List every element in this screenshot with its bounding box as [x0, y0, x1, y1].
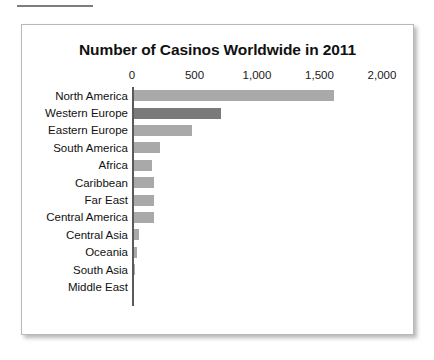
- bar-rows: North AmericaWestern EuropeEastern Europ…: [22, 87, 413, 296]
- bar-track: [134, 244, 138, 261]
- category-label: Middle East: [22, 281, 128, 293]
- bar-row: Oceania: [22, 244, 413, 261]
- bar-row: South America: [22, 139, 413, 156]
- category-label: Central Asia: [22, 229, 128, 241]
- bar-track: [134, 157, 153, 174]
- bar: [134, 177, 155, 188]
- bar-chart-plot-area: 05001,0001,5002,000 North AmericaWestern…: [22, 25, 413, 334]
- x-axis-tick-label: 1,500: [305, 69, 334, 81]
- bar: [134, 229, 139, 240]
- category-label: Oceania: [22, 246, 128, 258]
- bar-track: [134, 191, 154, 208]
- bar-track: [134, 174, 155, 191]
- x-axis-tick-label: 2,000: [368, 69, 397, 81]
- bar-row: South Asia: [22, 261, 413, 278]
- bar-row: Middle East: [22, 278, 413, 295]
- bar-track: [134, 122, 193, 139]
- bar: [134, 90, 334, 101]
- category-label: South America: [22, 142, 128, 154]
- category-label: South Asia: [22, 264, 128, 276]
- chart-card: Number of Casinos Worldwide in 2011 0500…: [21, 24, 414, 335]
- bar: [134, 160, 153, 171]
- bar: [134, 247, 138, 258]
- x-axis-tick-label: 500: [185, 69, 204, 81]
- category-label: Eastern Europe: [22, 124, 128, 136]
- bar-row: Central Asia: [22, 226, 413, 243]
- bar-track: [134, 104, 222, 121]
- category-label: Far East: [22, 194, 128, 206]
- bar-track: [134, 209, 155, 226]
- bar-row: North America: [22, 87, 413, 104]
- category-label: North America: [22, 90, 128, 102]
- bar-track: [134, 261, 135, 278]
- bar-row: Eastern Europe: [22, 122, 413, 139]
- bar-row: Africa: [22, 157, 413, 174]
- category-label: Western Europe: [22, 107, 128, 119]
- bar-row: Western Europe: [22, 104, 413, 121]
- bar-row: Central America: [22, 209, 413, 226]
- bar: [134, 142, 160, 153]
- bar: [134, 212, 155, 223]
- bar: [134, 264, 135, 275]
- bar-track: [134, 226, 139, 243]
- bar-row: Far East: [22, 191, 413, 208]
- bar-track: [134, 87, 334, 104]
- category-label: Africa: [22, 159, 128, 171]
- x-axis-tick-label: 1,000: [243, 69, 272, 81]
- page-top-rule: [17, 5, 93, 7]
- x-axis-tick-labels: 05001,0001,5002,000: [132, 69, 382, 85]
- bar: [134, 195, 154, 206]
- bar-row: Caribbean: [22, 174, 413, 191]
- bar-track: [134, 139, 160, 156]
- category-label: Caribbean: [22, 177, 128, 189]
- bar: [134, 108, 222, 119]
- x-axis-tick-label: 0: [129, 69, 135, 81]
- bar: [134, 125, 193, 136]
- category-label: Central America: [22, 211, 128, 223]
